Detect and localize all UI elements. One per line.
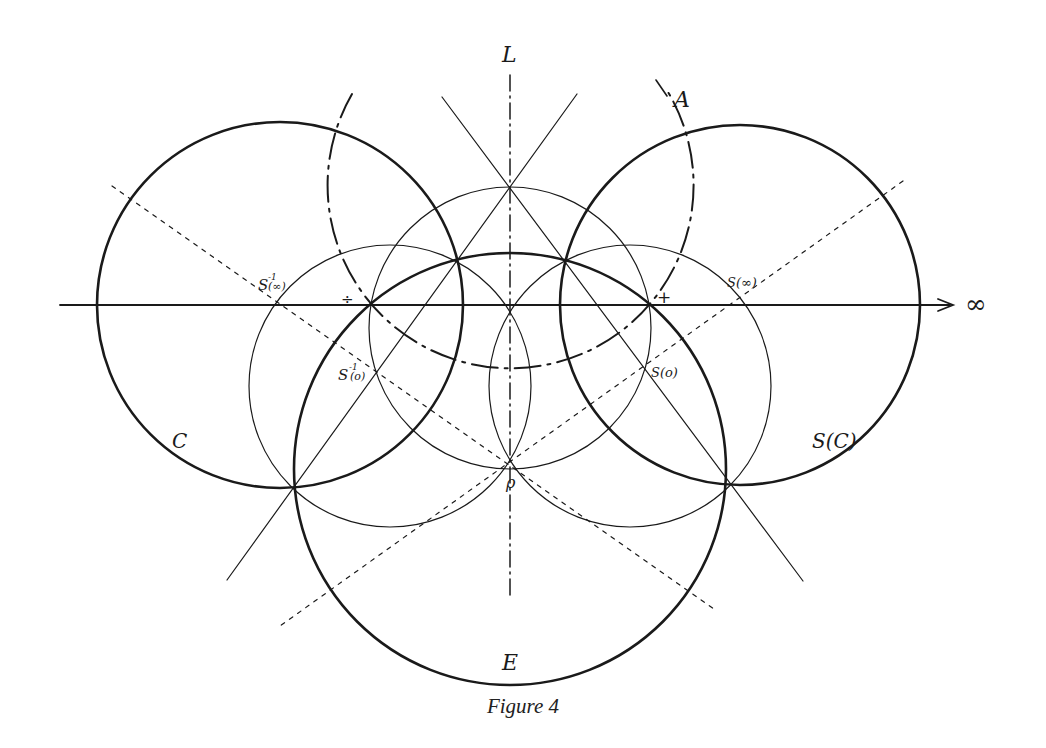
svg-text:(∞): (∞) <box>268 280 286 293</box>
figure-caption: Figure 4 <box>0 694 1046 719</box>
label-S-inverse-infinity: S -1 (∞) <box>258 272 286 294</box>
label-infinity: ∞ <box>965 289 987 319</box>
dotted-line-left <box>112 186 714 609</box>
svg-text:(o): (o) <box>350 370 365 383</box>
label-rho: ρ <box>505 473 516 492</box>
label-E: E <box>501 650 518 675</box>
label-minus-point: ÷ <box>341 290 354 308</box>
svg-text:S: S <box>338 366 348 384</box>
svg-text:S: S <box>258 276 268 294</box>
label-SC: S(C) <box>812 429 857 453</box>
arc-A-tick <box>656 80 667 96</box>
label-plus-point: + <box>657 287 671 307</box>
dotted-line-right <box>280 181 903 626</box>
label-C: C <box>172 429 187 453</box>
label-L: L <box>501 42 517 67</box>
label-S-inverse-zero: S -1 (o) <box>338 362 365 384</box>
figure-4-diagram: L A ∞ C S(C) E ρ ÷ + S(∞) S(o) S -1 (∞) … <box>0 0 1046 748</box>
label-A: A <box>672 87 690 112</box>
label-S-infinity: S(∞) <box>727 275 757 290</box>
label-S-zero: S(o) <box>651 365 678 380</box>
